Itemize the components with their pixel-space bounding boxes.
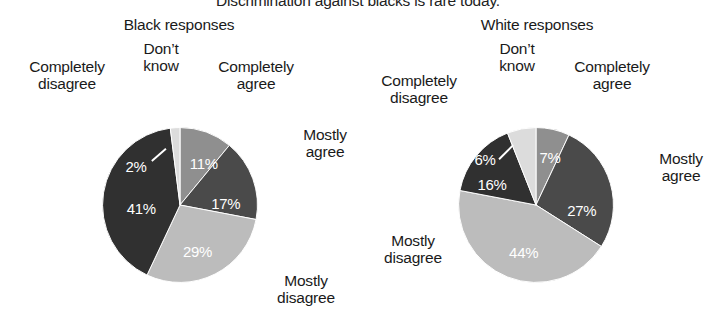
label-dont-know-white-line1: Don’t [474, 40, 560, 57]
value-completely-disagree-black: 41% [127, 200, 156, 217]
value-completely-agree-black: 11% [190, 155, 218, 172]
label-dont-know-black: Don’t know [118, 40, 204, 74]
value-mostly-agree-black: 17% [211, 195, 240, 212]
label-dont-know-white-line2: know [474, 57, 560, 74]
chart-root: Discrimination against blacks is rare to… [0, 0, 716, 333]
label-dont-know-white: Don’t know [474, 40, 560, 74]
pie-chart-white: 7% 27% 44% 16% 6% [448, 117, 624, 293]
label-completely-disagree-black: Completely disagree [6, 58, 128, 92]
panel-title-black: Black responses [0, 16, 358, 34]
value-completely-disagree-white: 16% [477, 176, 506, 193]
label-completely-disagree-white-line1: Completely [358, 72, 480, 89]
pie-svg-white: 7% 27% 44% 16% 6% [448, 117, 624, 293]
label-mostly-agree-black-line1: Mostly [288, 126, 362, 143]
value-completely-agree-white: 7% [540, 149, 561, 166]
label-dont-know-black-line2: know [118, 57, 204, 74]
pie-chart-black: 11% 17% 29% 41% 2% [92, 117, 268, 293]
panel-white-responses: White responses Don’t know Completely ag… [358, 0, 716, 333]
label-mostly-agree-white: Mostly agree [644, 150, 716, 184]
label-completely-disagree-black-line1: Completely [6, 58, 128, 75]
value-mostly-disagree-black: 29% [183, 243, 212, 260]
label-completely-agree-black-line2: agree [196, 75, 316, 92]
label-completely-disagree-black-line2: disagree [6, 75, 128, 92]
label-mostly-agree-black: Mostly agree [288, 126, 362, 160]
label-completely-disagree-white-line2: disagree [358, 89, 480, 106]
label-completely-agree-black: Completely agree [196, 58, 316, 92]
label-mostly-agree-white-line2: agree [644, 167, 716, 184]
label-dont-know-black-line1: Don’t [118, 40, 204, 57]
label-mostly-disagree-black-line2: disagree [254, 289, 358, 306]
value-dont-know-black: 2% [125, 158, 146, 175]
panel-title-white: White responses [358, 16, 716, 34]
value-mostly-agree-white: 27% [567, 202, 596, 219]
value-dont-know-white: 6% [474, 151, 495, 168]
value-mostly-disagree-white: 44% [509, 244, 538, 261]
label-mostly-agree-white-line1: Mostly [644, 150, 716, 167]
pie-svg-black: 11% 17% 29% 41% 2% [92, 117, 268, 293]
label-mostly-agree-black-line2: agree [288, 143, 362, 160]
label-completely-disagree-white: Completely disagree [358, 72, 480, 106]
label-completely-agree-white-line2: agree [552, 75, 672, 92]
label-completely-agree-white-line1: Completely [552, 58, 672, 75]
panel-black-responses: Black responses Don’t know Completely ag… [0, 0, 358, 333]
label-completely-agree-white: Completely agree [552, 58, 672, 92]
label-completely-agree-black-line1: Completely [196, 58, 316, 75]
label-mostly-disagree-black-line1: Mostly [254, 272, 358, 289]
label-mostly-disagree-black: Mostly disagree [254, 272, 358, 306]
